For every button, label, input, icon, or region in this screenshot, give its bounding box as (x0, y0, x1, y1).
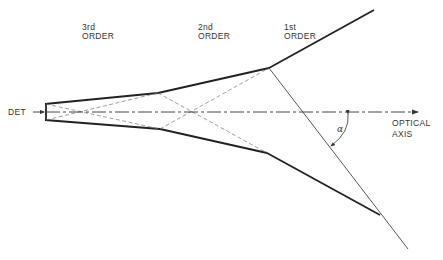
first-order-ray (269, 68, 408, 249)
lower-wall (45, 120, 380, 215)
second-order-label: 2nd ORDER (198, 22, 230, 41)
svg-text:AXIS: AXIS (392, 129, 413, 139)
detector-label: DET (8, 107, 26, 117)
svg-text:OPTICAL: OPTICAL (392, 118, 430, 128)
optical-axis-label: OPTICAL AXIS (392, 118, 430, 139)
svg-text:ORDER: ORDER (82, 31, 114, 41)
angle-alpha-label: α (337, 124, 343, 134)
concentrator-diagram: 3rd ORDER 2nd ORDER 1st ORDER DET OPTICA… (0, 0, 443, 260)
svg-text:ORDER: ORDER (284, 31, 316, 41)
third-order-label: 3rd ORDER (82, 22, 114, 41)
construction-lines (46, 68, 269, 153)
first-order-label: 1st ORDER (284, 22, 316, 41)
svg-text:ORDER: ORDER (198, 31, 230, 41)
